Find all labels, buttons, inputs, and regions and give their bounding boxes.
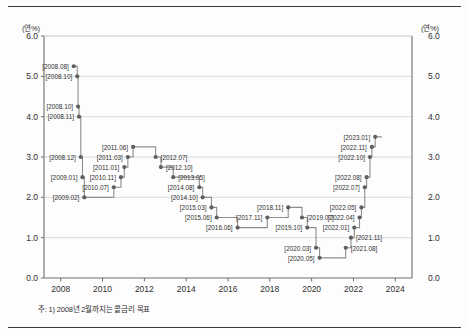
data-point-marker — [305, 225, 309, 229]
data-point-marker — [77, 115, 81, 119]
x-tick-label: 2008 — [51, 284, 70, 294]
data-point-label: [2009.01] — [51, 174, 78, 182]
data-point-marker — [314, 246, 318, 250]
data-point-marker — [119, 175, 123, 179]
data-point-marker — [373, 135, 377, 139]
data-point-marker — [363, 185, 367, 189]
data-point-marker — [76, 104, 80, 108]
y-tick-label-left: 1.0 — [26, 233, 38, 243]
y-tick-label-left: 5.0 — [26, 71, 38, 81]
y-tick-label-right: 6.0 — [428, 31, 440, 41]
data-point-label: [2008.10] — [46, 73, 73, 81]
data-point-label: [2015.06] — [185, 214, 212, 222]
data-point-label: [2022.01] — [323, 224, 350, 232]
data-point-label: [2008.08] — [42, 63, 69, 71]
x-tick-label: 2020 — [302, 284, 321, 294]
data-point-label: [2008.10] — [46, 103, 73, 111]
y-tick-label-right: 5.0 — [428, 71, 440, 81]
data-point-label: [2017.11] — [236, 214, 262, 222]
data-point-label: [2010.11] — [90, 174, 116, 182]
data-point-marker — [80, 175, 84, 179]
data-point-label: [2011.01] — [93, 164, 119, 172]
x-tick-label: 2014 — [177, 284, 196, 294]
data-point-label: [2018.11] — [257, 204, 283, 212]
data-point-marker — [82, 195, 86, 199]
data-point-label: [2022.07] — [333, 184, 360, 192]
y-tick-label-left: 6.0 — [26, 31, 38, 41]
data-point-marker — [359, 205, 363, 209]
data-point-marker — [352, 225, 356, 229]
data-point-label: [2022.10] — [338, 154, 365, 162]
y-tick-label-left: 0.0 — [26, 273, 38, 283]
x-axis-ticks: 200820102012201420162018202020222024 — [51, 278, 405, 294]
data-point-label: [2014.08] — [168, 184, 195, 192]
data-point-label: [2021.11] — [356, 234, 382, 242]
data-point-label: [2023.01] — [344, 134, 371, 142]
policy-rate-step-chart: 6.05.04.03.02.01.00.0 6.05.04.03.02.01.0… — [0, 0, 469, 334]
x-tick-label: 2022 — [344, 284, 363, 294]
data-point-label: [2022.11] — [341, 144, 367, 152]
data-point-marker — [265, 215, 269, 219]
data-point-label: [2022.04] — [328, 214, 355, 222]
data-point-label: [2016.06] — [206, 224, 233, 232]
data-point-marker — [209, 205, 213, 209]
y-tick-label-left: 3.0 — [26, 152, 38, 162]
data-point-marker — [131, 145, 135, 149]
data-point-marker — [286, 205, 290, 209]
y-tick-label-right: 1.0 — [428, 233, 440, 243]
data-point-marker — [236, 225, 240, 229]
chart-canvas: 6.05.04.03.02.01.00.0 6.05.04.03.02.01.0… — [0, 0, 469, 334]
y-tick-label-right: 2.0 — [428, 192, 440, 202]
data-point-marker — [317, 256, 321, 260]
chart-page: (연%) (연%) 6.05.04.03.02.01.00.0 6.05.04.… — [0, 0, 469, 334]
data-point-marker — [197, 185, 201, 189]
data-point-label: [2008.12] — [49, 154, 76, 162]
x-tick-label: 2012 — [135, 284, 154, 294]
y-axis-ticks-right: 6.05.04.03.02.01.00.0 — [428, 31, 440, 283]
data-point-marker — [365, 175, 369, 179]
data-point-marker — [122, 165, 126, 169]
data-point-marker — [368, 155, 372, 159]
chart-footnote: 주: 1) 2008년 2월까지는 콜금리 목표 — [38, 303, 150, 314]
data-point-label: [2014.10] — [171, 194, 198, 202]
data-point-marker — [370, 145, 374, 149]
data-point-marker — [159, 165, 163, 169]
data-point-label: [2012.10] — [166, 164, 193, 172]
data-point-labels: [2008.08][2008.10][2008.10][2008.11][200… — [42, 63, 382, 263]
data-point-marker — [75, 74, 79, 78]
data-point-label: [2020.05] — [288, 255, 315, 263]
data-point-label: [2022.05] — [330, 204, 357, 212]
data-point-marker — [72, 64, 76, 68]
data-point-label: [2015.03] — [180, 204, 207, 212]
x-tick-label: 2016 — [219, 284, 238, 294]
y-tick-label-right: 0.0 — [428, 273, 440, 283]
data-point-marker — [215, 215, 219, 219]
y-tick-label-left: 4.0 — [26, 112, 38, 122]
data-point-marker — [201, 195, 205, 199]
data-point-label: [2008.11] — [48, 113, 74, 121]
data-point-marker — [357, 215, 361, 219]
y-tick-label-right: 4.0 — [428, 112, 440, 122]
data-point-label: [2011.06] — [102, 144, 128, 152]
data-point-label: [2012.07] — [161, 154, 188, 162]
data-point-marker — [112, 185, 116, 189]
data-point-marker — [344, 246, 348, 250]
data-point-label: [2011.03] — [97, 154, 123, 162]
data-point-marker — [79, 155, 83, 159]
data-point-label: [2021.08] — [351, 245, 378, 253]
x-tick-label: 2010 — [93, 284, 112, 294]
data-point-marker — [171, 175, 175, 179]
y-tick-label-left: 2.0 — [26, 192, 38, 202]
data-point-label: [2020.03] — [284, 245, 311, 253]
data-point-marker — [349, 236, 353, 240]
data-point-marker — [300, 215, 304, 219]
data-point-label: [2013.05] — [178, 174, 205, 182]
x-tick-label: 2024 — [386, 284, 405, 294]
data-point-label: [2022.08] — [335, 174, 362, 182]
data-point-marker — [126, 155, 130, 159]
data-point-marker — [154, 155, 158, 159]
y-tick-label-right: 3.0 — [428, 152, 440, 162]
x-tick-label: 2018 — [260, 284, 279, 294]
data-point-label: [2009.02] — [53, 194, 80, 202]
data-point-label: [2010.07] — [82, 184, 109, 192]
